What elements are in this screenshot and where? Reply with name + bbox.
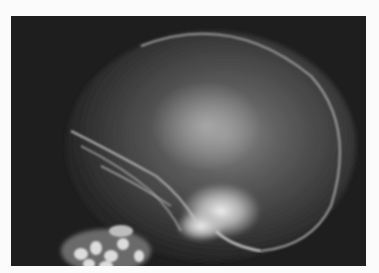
skull-radiograph xyxy=(11,16,366,266)
xray-image xyxy=(11,16,366,266)
